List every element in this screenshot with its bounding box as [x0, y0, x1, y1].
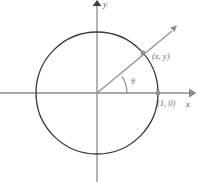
reference-point-marker: [156, 91, 161, 96]
angle-arc: [122, 77, 127, 93]
x-axis-label: x: [185, 99, 190, 109]
x-axis-arrow-icon: [189, 89, 197, 98]
reference-point-label: (1, 0): [157, 98, 176, 108]
y-axis-label: y: [102, 0, 107, 9]
terminal-point-label: (x, y): [152, 51, 170, 61]
unit-circle-figure: θ (x, y) (1, 0) x y: [0, 0, 198, 182]
terminal-point-marker: [141, 51, 146, 56]
y-axis-arrow-icon: [93, 0, 102, 6]
angle-theta-label: θ: [131, 77, 135, 86]
